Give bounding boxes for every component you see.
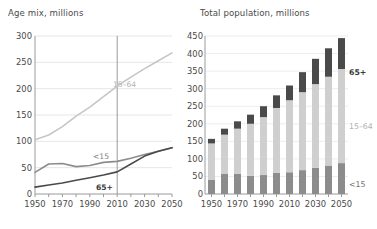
right-y-tick: 250 (177, 101, 203, 111)
right-y-tick: 300 (177, 84, 203, 94)
left-series-label-young: <15 (93, 152, 109, 161)
right-series-label-old: 65+ (349, 68, 366, 77)
left-x-tick: 2010 (107, 199, 128, 209)
right-x-tick: 2030 (305, 199, 326, 209)
right-y-tick: 150 (177, 136, 203, 146)
panel-age-mix: Age mix, millions 15–64 <15 65+ 05010015… (0, 0, 190, 229)
right-y-tick: 200 (177, 119, 203, 129)
left-y-tick: 0 (6, 189, 32, 199)
left-line-chart (35, 36, 172, 194)
left-y-tick: 250 (6, 57, 32, 67)
right-x-tick: 1990 (253, 199, 274, 209)
figure-root: Age mix, millions 15–64 <15 65+ 05010015… (0, 0, 377, 229)
left-y-tick: 150 (6, 110, 32, 120)
panel-total-population: Total population, millions 0501001502002… (190, 0, 377, 229)
left-y-tick: 50 (6, 163, 32, 173)
left-series-label-working: 15–64 (113, 80, 136, 89)
right-series-label-young: <15 (349, 180, 365, 189)
right-series-label-working: 15–64 (349, 122, 373, 131)
left-x-tick: 2050 (161, 199, 182, 209)
right-y-tick: 0 (177, 189, 203, 199)
right-y-tick: 450 (177, 31, 203, 41)
left-chart-title: Age mix, millions (8, 8, 83, 18)
right-chart-title: Total population, millions (200, 8, 310, 18)
left-y-tick: 200 (6, 84, 32, 94)
right-x-tick: 2050 (331, 199, 352, 209)
left-x-tick: 1950 (24, 199, 45, 209)
left-x-tick: 2030 (134, 199, 155, 209)
right-x-tick: 2010 (279, 199, 300, 209)
right-x-tick: 1950 (201, 199, 222, 209)
left-plot-area (35, 36, 172, 194)
right-y-tick: 400 (177, 49, 203, 59)
left-y-tick: 100 (6, 136, 32, 146)
left-series-label-old: 65+ (96, 183, 113, 192)
left-y-tick: 300 (6, 31, 32, 41)
right-plot-area: 050100150200250300350400450 (205, 36, 348, 194)
right-bar-chart (205, 36, 348, 194)
right-y-tick: 350 (177, 66, 203, 76)
left-x-tick: 1990 (79, 199, 100, 209)
right-x-tick: 1970 (227, 199, 248, 209)
right-y-tick: 50 (177, 171, 203, 181)
right-y-tick: 100 (177, 154, 203, 164)
left-x-tick: 1970 (52, 199, 73, 209)
